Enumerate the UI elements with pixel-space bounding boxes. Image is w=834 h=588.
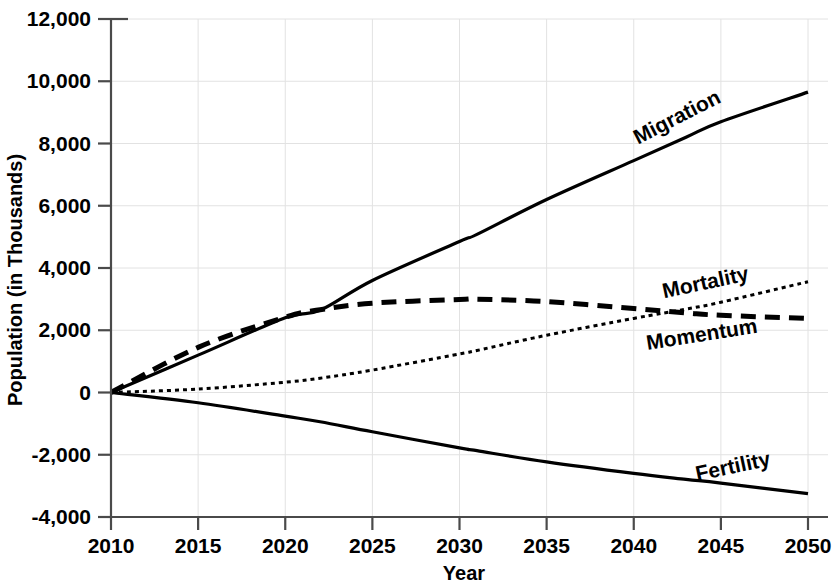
- y-tick-label: 12,000: [27, 7, 91, 30]
- series-inline-labels: MigrationMortalityMomentumFertility: [629, 85, 772, 485]
- x-axis-ticks: 201020152020202520302035204020452050: [88, 517, 832, 557]
- x-axis-title: Year: [443, 562, 485, 584]
- y-tick-label: 8,000: [38, 132, 91, 155]
- x-tick-label: 2020: [262, 534, 309, 557]
- y-tick-label: 4,000: [38, 256, 91, 279]
- series-label-fertility: Fertility: [693, 447, 772, 485]
- x-tick-label: 2045: [698, 534, 745, 557]
- y-axis-title: Population (in Thousands): [4, 154, 26, 406]
- x-tick-label: 2035: [523, 534, 570, 557]
- y-tick-label: -2,000: [31, 443, 91, 466]
- y-tick-label: 6,000: [38, 194, 91, 217]
- series-label-migration: Migration: [629, 85, 724, 148]
- x-tick-label: 2015: [175, 534, 222, 557]
- y-axis-ticks: 12,00010,0008,0006,0004,0002,0000-2,000-…: [27, 7, 111, 528]
- chart-svg: 12,00010,0008,0006,0004,0002,0000-2,000-…: [0, 0, 834, 588]
- x-tick-label: 2030: [436, 534, 483, 557]
- population-projection-chart: 12,00010,0008,0006,0004,0002,0000-2,000-…: [0, 0, 834, 588]
- x-tick-label: 2010: [88, 534, 135, 557]
- y-tick-label: -4,000: [31, 505, 91, 528]
- y-tick-label: 10,000: [27, 69, 91, 92]
- x-tick-label: 2050: [785, 534, 832, 557]
- y-tick-label: 2,000: [38, 318, 91, 341]
- x-tick-label: 2040: [610, 534, 657, 557]
- x-tick-label: 2025: [349, 534, 396, 557]
- series-label-momentum: Momentum: [645, 314, 759, 354]
- y-tick-label: 0: [79, 381, 91, 404]
